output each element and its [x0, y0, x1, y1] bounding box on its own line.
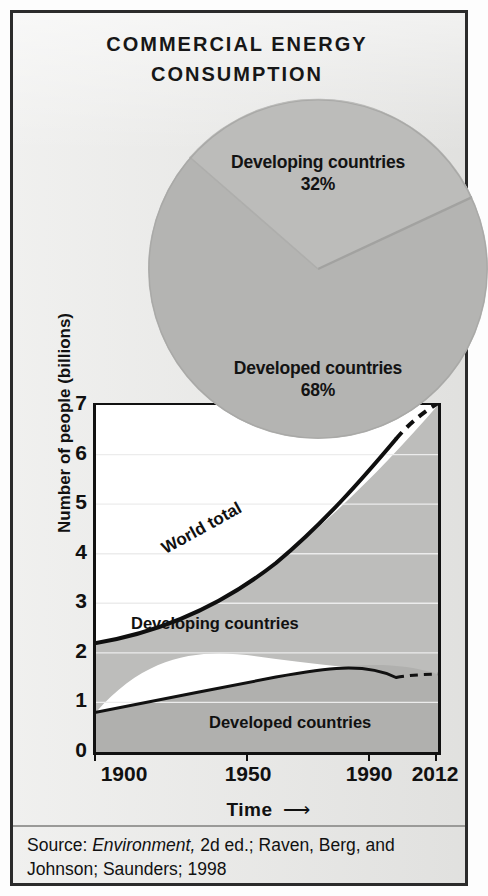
pie-slice-developing — [190, 99, 472, 269]
pie-outline — [149, 100, 487, 438]
x-axis-ticks: 1900 1950 1990 2012 — [93, 753, 441, 793]
series-label-developing-countries: Developing countries — [131, 614, 299, 633]
y-tick-0: 0 — [75, 738, 87, 762]
title-line-2: Consumption — [13, 59, 471, 89]
x-tick-label-2012: 2012 — [412, 762, 459, 786]
x-tick-label-1900: 1900 — [101, 762, 148, 786]
pie-label-developing-name: Developing countries — [231, 152, 405, 172]
pie-label-developed: Developed countries 68% — [148, 357, 488, 401]
source-divider — [13, 825, 465, 827]
y-tick-1: 1 — [75, 688, 87, 712]
y-tick-2: 2 — [75, 639, 87, 663]
y-tick-5: 5 — [75, 490, 87, 514]
pie-label-developing-value: 32% — [148, 173, 488, 195]
x-tick-label-1950: 1950 — [225, 762, 272, 786]
y-tick-3: 3 — [75, 589, 87, 613]
pie-label-developed-name: Developed countries — [234, 358, 402, 378]
y-tick-4: 4 — [75, 540, 87, 564]
pie-divider-right — [318, 197, 472, 269]
energy-consumption-pie: Developing countries 32% Developed count… — [148, 99, 488, 439]
pie-label-developed-value: 68% — [148, 379, 488, 401]
title-line-1: Commercial Energy — [13, 29, 471, 59]
y-axis-title: Number of people (billions) — [55, 273, 75, 573]
population-area-chart — [93, 403, 441, 755]
figure-title: Commercial Energy Consumption — [13, 29, 471, 89]
x-tick-mark-1990 — [368, 753, 370, 761]
source-work-title: Environment, — [92, 835, 195, 855]
pie-divider-left — [190, 157, 318, 269]
x-axis-title-text: Time — [226, 799, 272, 820]
series-label-developed-countries: Developed countries — [209, 713, 371, 732]
pie-svg — [148, 99, 488, 439]
figure-panel: Commercial Energy Consumption — [10, 10, 468, 886]
x-tick-mark-2012 — [435, 753, 437, 761]
area-chart-svg — [96, 405, 438, 752]
pie-label-developing: Developing countries 32% — [148, 151, 488, 195]
x-tick-mark-1900 — [94, 753, 96, 761]
source-note: Source: Environment, 2d ed.; Raven, Berg… — [27, 833, 457, 881]
x-axis-title: Time⟶ — [93, 798, 441, 821]
source-prefix: Source: — [27, 835, 92, 855]
y-tick-7: 7 — [75, 391, 87, 415]
x-tick-label-1990: 1990 — [346, 762, 393, 786]
figure-root: Commercial Energy Consumption — [0, 0, 488, 896]
right-arrow-icon: ⟶ — [283, 798, 308, 821]
x-tick-mark-1950 — [246, 753, 248, 761]
pie-slice-developed — [148, 99, 488, 439]
y-tick-6: 6 — [75, 441, 87, 465]
